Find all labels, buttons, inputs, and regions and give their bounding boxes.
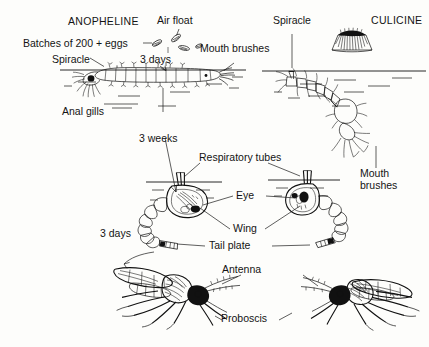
label-eye: Eye xyxy=(236,190,254,202)
label-tail-plate: Tail plate xyxy=(209,240,250,252)
tail-plate-leader-left xyxy=(177,244,205,246)
label-anal-gills: Anal gills xyxy=(62,106,104,118)
label-three-days-adult: 3 days xyxy=(100,228,131,240)
label-air-float: Air float xyxy=(157,15,193,27)
culicine-egg-raft xyxy=(332,28,372,52)
wing-leader-left xyxy=(200,208,230,229)
water-surface-right xyxy=(262,71,426,106)
three-weeks-arrow xyxy=(165,138,176,192)
label-proboscis: Proboscis xyxy=(221,313,267,325)
proboscis-leader-right xyxy=(279,313,292,320)
anopheline-larva xyxy=(72,62,235,97)
label-wing: Wing xyxy=(233,223,257,235)
label-spiracle-left: Spiracle xyxy=(52,54,90,66)
spiracle-left-leader xyxy=(90,58,104,67)
anopheline-pupa xyxy=(138,172,207,250)
antenna-leader-right xyxy=(303,275,318,286)
heading-anopheline: ANOPHELINE xyxy=(68,16,139,28)
wing-leader-right xyxy=(265,206,300,229)
respiratory-tubes-leader-left xyxy=(184,163,200,177)
label-spiracle-right: Spiracle xyxy=(273,15,311,27)
mosquito-life-cycle-figure: ANOPHELINE CULICINE Air float Batches of… xyxy=(0,0,429,347)
label-three-weeks: 3 weeks xyxy=(139,133,178,145)
label-mouth-brushes-right: Mouth brushes xyxy=(360,168,397,191)
respiratory-tubes-leader-right xyxy=(268,163,300,176)
label-batches-of-eggs: Batches of 200 + eggs xyxy=(23,38,128,50)
adult-mosquito-right xyxy=(301,277,419,331)
water-surface-left xyxy=(60,70,246,108)
label-three-days-eggs: 3 days xyxy=(140,54,171,66)
label-mouth-brushes-left: Mouth brushes xyxy=(200,43,269,55)
anopheline-eggs-group xyxy=(151,33,203,53)
label-antenna: Antenna xyxy=(222,264,261,276)
culicine-larva xyxy=(276,68,370,157)
heading-culicine: CULICINE xyxy=(371,15,422,27)
label-respiratory-tubes: Respiratory tubes xyxy=(199,152,281,164)
tail-plate-leader-right xyxy=(272,245,310,246)
three-days-adult-arrow xyxy=(124,252,154,264)
mouth-brushes-left-leader xyxy=(224,63,234,71)
